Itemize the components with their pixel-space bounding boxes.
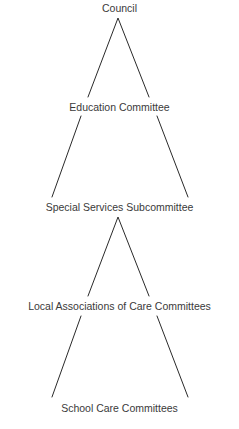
connector-council-education — [88, 18, 149, 97]
node-special-services-subcommittee: Special Services Subcommittee — [0, 201, 239, 213]
node-education-committee: Education Committee — [0, 101, 239, 113]
connector-education-special-left — [52, 116, 81, 197]
connector-education-special-right — [157, 116, 188, 197]
hierarchy-diagram: Council Education Committee Special Serv… — [0, 0, 239, 429]
connector-local-school-right — [157, 316, 188, 397]
node-school-care-committees: School Care Committees — [0, 402, 239, 414]
node-local-associations: Local Associations of Care Committees — [0, 300, 239, 312]
connector-special-local — [88, 217, 149, 296]
connector-local-school-left — [52, 316, 81, 397]
connector-lines — [0, 0, 239, 429]
node-council: Council — [0, 2, 239, 14]
